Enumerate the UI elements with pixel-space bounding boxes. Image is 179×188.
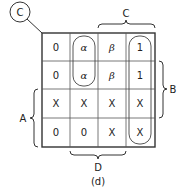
cell-r1-c2: β (108, 70, 115, 81)
brace-right (159, 61, 167, 118)
brace-bottom (70, 151, 126, 159)
cell-r2-c2: X (109, 98, 116, 109)
cell-r3-c0: 0 (53, 127, 59, 138)
cell-r3-c1: 0 (81, 127, 87, 138)
cell-r1-c3: 1 (137, 70, 143, 81)
corner-label (10, 2, 42, 33)
cell-r0-c1: α (81, 42, 88, 53)
brace-left (30, 89, 38, 147)
corner-label-text: C (17, 7, 24, 18)
cell-r2-c3: X (137, 98, 144, 109)
cell-r0-c0: 0 (53, 42, 59, 53)
cell-r0-c2: β (108, 42, 115, 53)
label-left: A (20, 113, 27, 124)
cell-r3-c2: X (109, 127, 116, 138)
cell-r3-c3: X (137, 127, 144, 138)
brace-top (98, 20, 155, 28)
label-right: B (170, 84, 177, 95)
cell-r2-c0: X (53, 98, 60, 109)
cell-r1-c1: α (81, 70, 88, 81)
cell-r2-c1: X (81, 98, 88, 109)
cell-r1-c0: 0 (53, 70, 59, 81)
karnaugh-map-diagram: C C B A D (d) 0 α β 1 0 α β 1 X X X X 0 … (0, 0, 179, 188)
caption: (d) (91, 176, 105, 187)
cell-r0-c3: 1 (137, 42, 143, 53)
label-bottom: D (94, 162, 102, 173)
label-top: C (123, 8, 130, 19)
